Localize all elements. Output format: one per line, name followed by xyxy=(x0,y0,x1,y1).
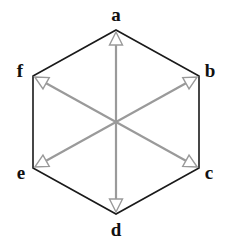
radial-arrows xyxy=(35,32,198,212)
arrowhead-icon-d xyxy=(110,199,123,212)
vertex-label-f: f xyxy=(17,60,24,81)
vertex-label-e: e xyxy=(17,162,25,183)
arrowhead-icon-a xyxy=(110,32,123,45)
arrow-shaft-e xyxy=(46,122,116,161)
hexagon-diagram: a b c d e f xyxy=(0,0,225,243)
vertex-label-c: c xyxy=(205,162,213,183)
vertex-label-b: b xyxy=(205,60,216,81)
arrow-shaft-c xyxy=(116,122,186,161)
arrow-shaft-f xyxy=(46,83,116,122)
vertex-label-a: a xyxy=(111,4,121,25)
arrow-shaft-b xyxy=(116,83,186,122)
vertex-label-d: d xyxy=(111,219,122,240)
